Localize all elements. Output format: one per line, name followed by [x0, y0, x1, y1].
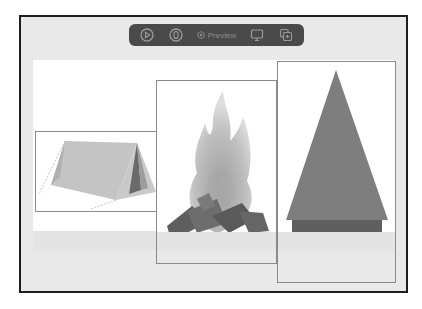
duplicate-icon — [279, 28, 293, 42]
tree-illustration — [278, 62, 395, 232]
tent-illustration — [36, 132, 156, 211]
live-button[interactable] — [168, 27, 184, 43]
monitor-icon — [250, 28, 264, 42]
capsule-circle-icon — [169, 28, 183, 42]
campfire-image[interactable] — [156, 80, 277, 264]
duplicate-button[interactable] — [278, 27, 294, 43]
preview-label: Preview — [208, 31, 236, 40]
tree-image[interactable] — [277, 61, 396, 283]
play-button[interactable] — [139, 27, 155, 43]
campfire-illustration — [157, 81, 276, 232]
tent-image[interactable] — [35, 131, 157, 212]
preview-mode-button[interactable]: Preview — [197, 31, 236, 40]
device-button[interactable] — [249, 27, 265, 43]
preview-window: Preview — [19, 15, 408, 293]
preview-toolbar: Preview — [129, 24, 304, 46]
play-circle-icon — [140, 28, 154, 42]
preview-target-icon — [197, 31, 205, 39]
